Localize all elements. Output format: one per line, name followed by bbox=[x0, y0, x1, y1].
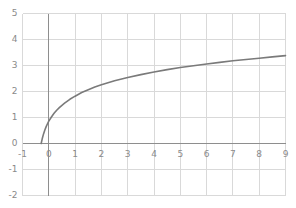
x-tick-label: 0 bbox=[39, 150, 59, 159]
y-tick-label: -1 bbox=[0, 165, 18, 174]
x-tick-label: 1 bbox=[65, 150, 85, 159]
x-tick-label: 9 bbox=[276, 150, 296, 159]
y-tick-label: 5 bbox=[0, 9, 18, 18]
x-tick-label: 8 bbox=[249, 150, 269, 159]
x-tick-label: -1 bbox=[13, 150, 33, 159]
x-tick-label: 7 bbox=[223, 150, 243, 159]
y-tick-label: 4 bbox=[0, 35, 18, 44]
x-tick-label: 4 bbox=[144, 150, 164, 159]
x-tick-label: 2 bbox=[91, 150, 111, 159]
chart-figure: -2-1012345 -10123456789 bbox=[0, 0, 295, 208]
x-tick-label: 6 bbox=[197, 150, 217, 159]
y-tick-label: 1 bbox=[0, 113, 18, 122]
y-tick-label: 0 bbox=[0, 139, 18, 148]
data-series-curve bbox=[41, 56, 285, 144]
chart-plot-area bbox=[0, 0, 295, 208]
y-tick-label: -2 bbox=[0, 191, 18, 200]
x-tick-label: 3 bbox=[118, 150, 138, 159]
x-tick-label: 5 bbox=[170, 150, 190, 159]
y-tick-label: 2 bbox=[0, 87, 18, 96]
y-tick-label: 3 bbox=[0, 61, 18, 70]
